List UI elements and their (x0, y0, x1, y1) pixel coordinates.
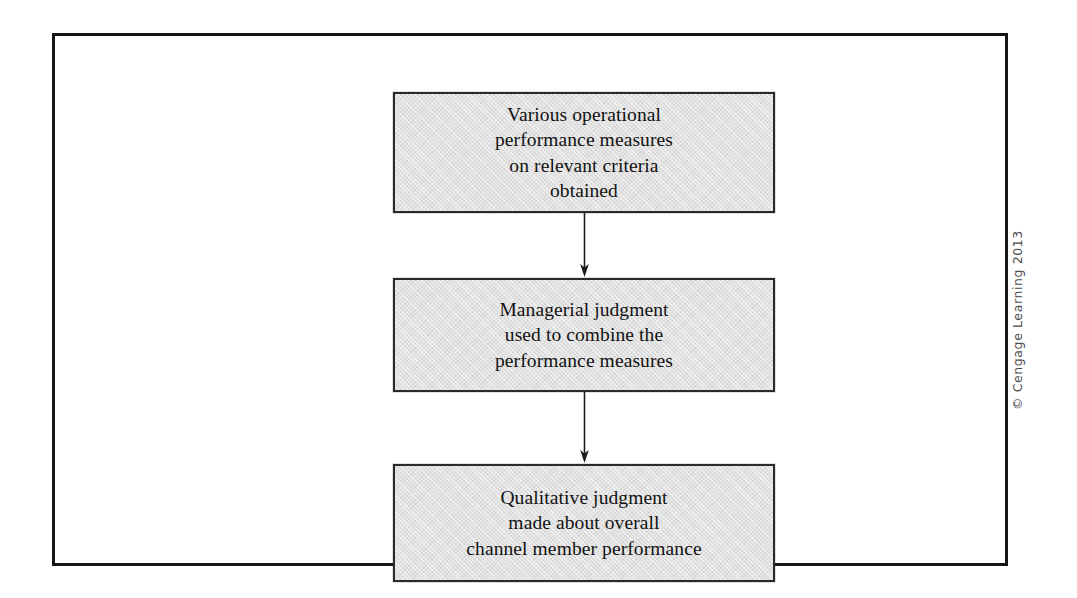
arrow-down-icon (578, 392, 591, 464)
figure-frame: Various operational performance measures… (52, 33, 1008, 566)
flowchart-box-2: Managerial judgment used to combine the … (393, 278, 775, 392)
flowchart-box-3: Qualitative judgment made about overall … (393, 464, 775, 582)
flowchart-box-1-label: Various operational performance measures… (487, 102, 681, 204)
copyright-notice: © Cengage Learning 2013 (1007, 230, 1029, 410)
flowchart-box-2-label: Managerial judgment used to combine the … (487, 297, 681, 374)
arrow-down-icon (578, 213, 591, 278)
flowchart-arrow-2 (578, 392, 591, 464)
flowchart-arrow-1 (578, 213, 591, 278)
flowchart-box-1: Various operational performance measures… (393, 92, 775, 213)
flowchart-box-3-label: Qualitative judgment made about overall … (458, 485, 709, 562)
